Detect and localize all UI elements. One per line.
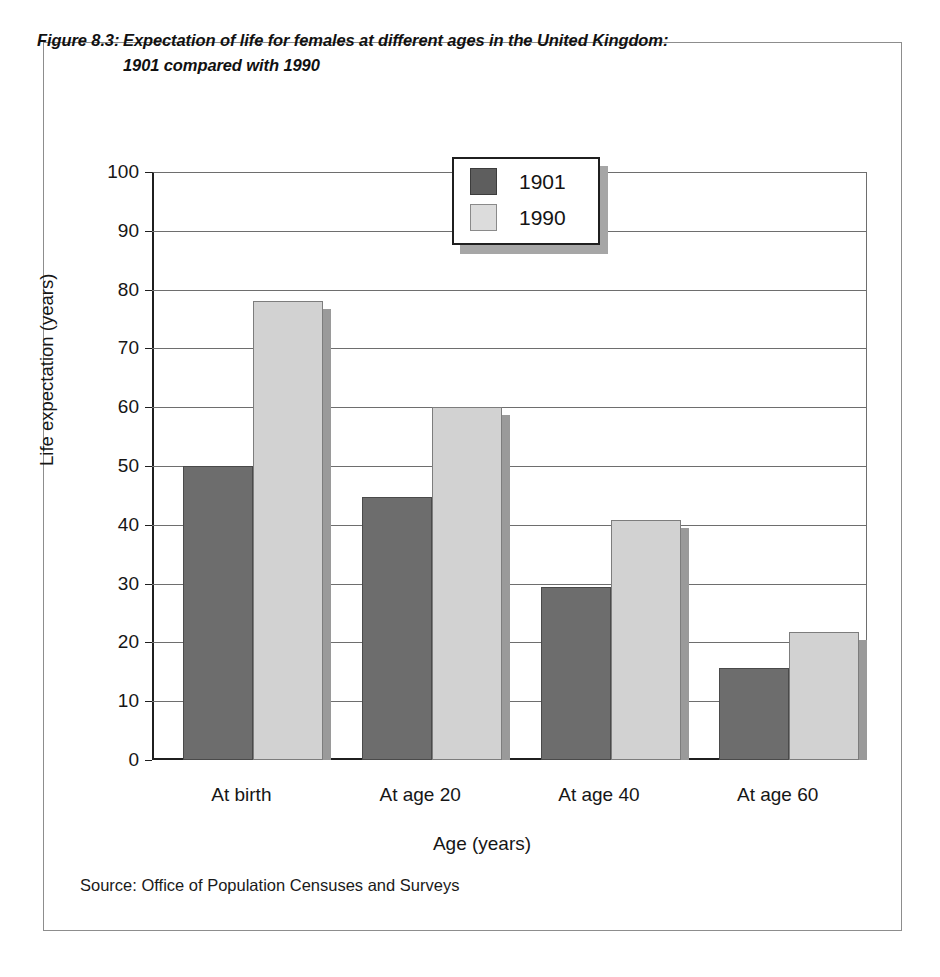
figure-number: Figure 8.3: <box>37 28 123 53</box>
legend-swatch-1901-icon <box>470 168 497 195</box>
y-axis-tick-label: 80 <box>118 279 139 301</box>
x-axis-category-label: At age 60 <box>737 784 818 806</box>
y-axis-tick-label: 60 <box>118 396 139 418</box>
x-axis-category-label: At age 20 <box>379 784 460 806</box>
y-axis-tick <box>145 466 152 467</box>
x-axis-category-label: At birth <box>211 784 271 806</box>
legend-item-1990: 1990 <box>470 204 566 231</box>
bar-1990-at-age-20 <box>432 407 502 760</box>
figure-title-line-2: 1901 compared with 1990 <box>123 56 320 74</box>
y-axis-tick-label: 40 <box>118 514 139 536</box>
chart-legend: 1901 1990 <box>452 157 600 245</box>
y-axis-tick-label: 30 <box>118 573 139 595</box>
y-axis-title: Life expectation (years) <box>36 274 58 466</box>
legend-item-1901: 1901 <box>470 168 566 195</box>
y-axis-tick <box>145 231 152 232</box>
y-axis-tick <box>145 584 152 585</box>
y-axis-tick-label: 90 <box>118 220 139 242</box>
source-note: Source: Office of Population Censuses an… <box>80 876 459 895</box>
y-axis-tick-label: 20 <box>118 631 139 653</box>
figure-title-line-1: Expectation of life for females at diffe… <box>123 31 668 49</box>
y-axis-tick-label: 0 <box>128 749 139 771</box>
y-axis-tick <box>145 172 152 173</box>
bar-1901-at-age-40 <box>541 587 611 760</box>
y-axis-tick <box>145 701 152 702</box>
bar-1990-at-birth <box>253 301 323 760</box>
y-axis-tick <box>145 760 152 761</box>
legend-swatch-1990-icon <box>470 204 497 231</box>
figure-title: Figure 8.3:Expectation of life for femal… <box>37 28 827 78</box>
y-axis-tick <box>145 407 152 408</box>
y-axis-tick-label: 100 <box>107 161 139 183</box>
y-axis-tick-label: 10 <box>118 690 139 712</box>
x-axis-category-label: At age 40 <box>558 784 639 806</box>
y-axis-tick <box>145 642 152 643</box>
legend-label-1901: 1901 <box>519 170 566 194</box>
chart-plot-area: 0102030405060708090100 At birthAt age 20… <box>152 172 867 760</box>
y-axis-tick <box>145 348 152 349</box>
y-axis-tick <box>145 290 152 291</box>
y-axis-tick-label: 70 <box>118 337 139 359</box>
x-axis-title-text: Age (years) <box>433 833 531 854</box>
bar-1901-at-age-60 <box>719 668 789 760</box>
gridline <box>152 290 867 291</box>
bar-1901-at-birth <box>183 466 253 760</box>
legend-label-1990: 1990 <box>519 206 566 230</box>
bar-1990-at-age-60 <box>789 632 859 760</box>
y-axis-tick <box>145 525 152 526</box>
x-axis-title: Age (years) <box>0 833 940 855</box>
bar-1990-at-age-40 <box>611 520 681 760</box>
bar-1901-at-age-20 <box>362 497 432 760</box>
y-axis-tick-label: 50 <box>118 455 139 477</box>
